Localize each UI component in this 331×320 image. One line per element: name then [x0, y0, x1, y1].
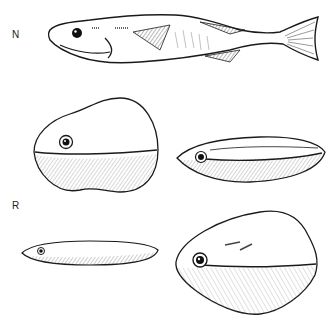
round-blob-drawing [34, 98, 158, 192]
normal-fish-drawing [49, 15, 319, 63]
diamond-blob-drawing [176, 211, 317, 314]
elongated-blob-drawing [177, 137, 325, 182]
illustration [0, 0, 331, 320]
thin-blob-drawing [22, 241, 158, 265]
fish-morphology-figure: N R [0, 0, 331, 320]
